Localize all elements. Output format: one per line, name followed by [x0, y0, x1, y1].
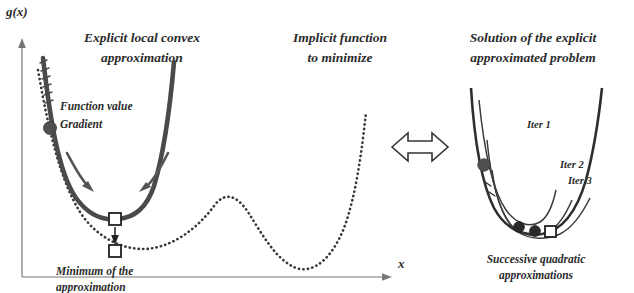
middle-title-line1: Implicit function	[292, 30, 387, 45]
right-caption-line1: Successive quadratic	[487, 253, 586, 266]
y-axis-arrowhead	[18, 38, 26, 48]
left-panel-title-line1: Explicit local convex	[83, 30, 200, 45]
gradient-label: Gradient	[60, 118, 103, 130]
left-panel-title-line2: approximation	[101, 50, 183, 65]
iterate-1-marker	[514, 222, 525, 233]
x-axis-arrowhead	[382, 273, 392, 281]
iter-1-label: Iter 1	[526, 119, 551, 130]
explicit-approximation-curve	[43, 58, 174, 219]
iterate-2-marker	[530, 226, 541, 237]
approximation-minimum-square	[109, 213, 121, 225]
iterate-0-marker	[478, 159, 490, 171]
function-value-label: Function value	[59, 100, 133, 112]
right-caption-line2: approximations	[499, 269, 574, 282]
right-panel-title-line1: Solution of the explicit	[470, 30, 598, 45]
axes-group	[18, 38, 392, 281]
converged-solution-square	[545, 226, 556, 237]
gradient-point-marker	[44, 122, 57, 135]
y-axis-label: g(x)	[5, 4, 28, 19]
middle-title-line2: to minimize	[308, 50, 373, 65]
x-axis-label: x	[397, 256, 405, 271]
figure-container: g(x) x Explicit local convex approximati…	[0, 0, 634, 293]
iter-2-label: Iter 2	[559, 159, 584, 170]
equivalence-arrow	[392, 133, 448, 161]
objective-minimum-square	[109, 245, 121, 257]
iter-3-label: Iter 3	[567, 175, 592, 186]
optimization-diagram: g(x) x Explicit local convex approximati…	[0, 0, 634, 293]
minimum-annotation-line1: Minimum of the	[55, 265, 133, 278]
iter2-curve	[487, 140, 572, 235]
right-panel-title-line2: approximated problem	[470, 50, 596, 65]
minimum-annotation-line2: approximation	[56, 281, 126, 293]
